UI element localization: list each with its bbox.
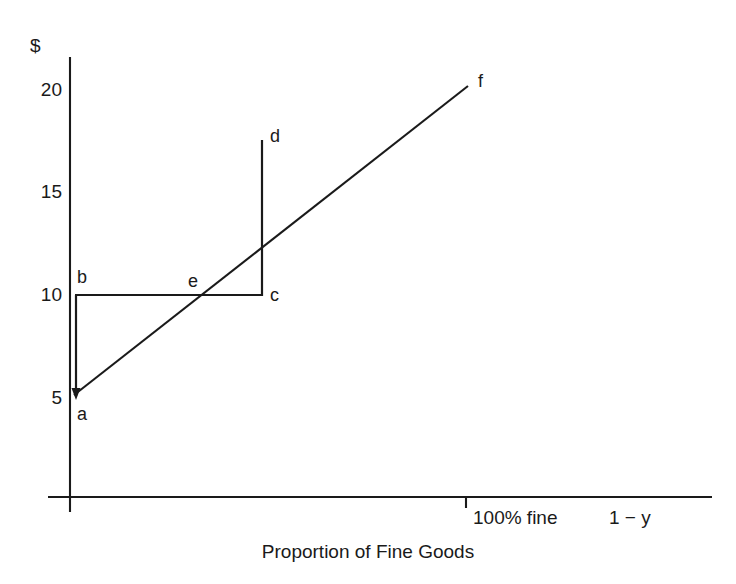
chart-plot-area [0,0,736,584]
point-label-f: f [478,72,483,90]
x-axis-variable-label: 1 − y [609,508,651,527]
y-tick-label-15: 15 [28,182,62,201]
chart-caption: Proportion of Fine Goods [0,541,736,563]
point-label-d: d [270,127,280,145]
point-label-c: c [270,286,279,304]
point-label-e: e [188,272,198,290]
y-tick-label-20: 20 [28,80,62,99]
point-label-b: b [77,268,87,286]
y-axis-title: $ [30,36,41,55]
y-tick-label-10: 10 [28,285,62,304]
chart-figure: $ 20 15 10 5 a b c d e f 100% fine 1 − y… [0,0,736,584]
y-tick-label-5: 5 [28,388,62,407]
x-axis-tick-label-100-fine: 100% fine [473,508,558,527]
point-label-a: a [77,405,87,423]
